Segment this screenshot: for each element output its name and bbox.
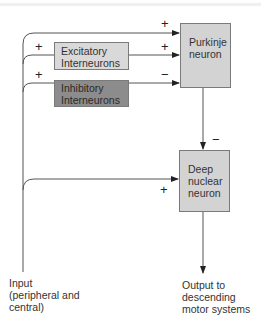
sign-purkinje-to-deep: − — [212, 133, 220, 146]
purkinje-label-line1: Purkinje — [189, 36, 230, 48]
inhibitory-interneurons-box: Inhibitory Interneurons — [54, 80, 129, 107]
input-to-deep-line — [23, 179, 178, 190]
input-to-inhibitory-line — [23, 83, 54, 92]
sign-inhibitory-to-purkinje: − — [161, 68, 169, 81]
output-caption-line1: Output to — [182, 279, 250, 291]
input-to-excitatory-line — [23, 55, 54, 64]
deep-nuclear-neuron-box: Deep nuclear neuron — [179, 150, 230, 212]
input-caption-line1: Input — [9, 277, 80, 289]
deep-label-line3: neuron — [188, 187, 229, 199]
input-caption-line2: (peripheral and — [9, 289, 80, 301]
deep-label-line1: Deep — [188, 163, 229, 175]
sign-input-to-excitatory: + — [35, 40, 43, 53]
sign-input-to-deep: + — [160, 183, 168, 196]
sign-input-to-inhibitory: + — [35, 68, 43, 81]
inhibitory-label-line2: Interneurons — [61, 94, 128, 106]
excitatory-label-line2: Interneurons — [61, 57, 128, 69]
output-caption-line3: motor systems — [182, 303, 250, 315]
input-caption: Input (peripheral and central) — [9, 277, 80, 313]
excitatory-label-line1: Excitatory — [61, 45, 128, 57]
output-caption: Output to descending motor systems — [182, 279, 250, 315]
sign-excitatory-to-purkinje: + — [161, 40, 169, 53]
excitatory-interneurons-box: Excitatory Interneurons — [54, 42, 129, 70]
purkinje-neuron-box: Purkinje neuron — [180, 23, 231, 88]
inhibitory-label-line1: Inhibitory — [61, 82, 128, 94]
input-caption-line3: central) — [9, 301, 80, 313]
deep-label-line2: nuclear — [188, 175, 229, 187]
output-caption-line2: descending — [182, 291, 250, 303]
sign-input-to-purkinje: + — [161, 17, 169, 30]
purkinje-label-line2: neuron — [189, 48, 230, 60]
